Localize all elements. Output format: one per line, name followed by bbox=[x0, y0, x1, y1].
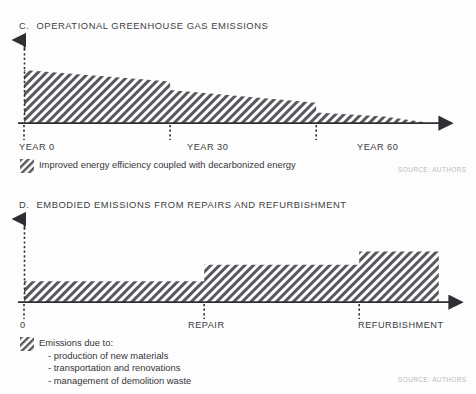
embodied-emissions-steps bbox=[24, 252, 439, 302]
embodied-emissions-chart bbox=[0, 211, 476, 321]
operational-emissions-chart bbox=[0, 32, 476, 142]
hatch-swatch-icon bbox=[20, 159, 34, 173]
embodied-legend-item-1: - production of new materials bbox=[39, 350, 191, 363]
panel-c-title: C.OPERATIONAL GREENHOUSE GAS EMISSIONS bbox=[19, 20, 268, 31]
embodied-legend-title: Emissions due to: bbox=[39, 337, 191, 350]
panel-d-title: D.EMBODIED EMISSIONS FROM REPAIRS AND RE… bbox=[19, 199, 347, 210]
figure-canvas: C.OPERATIONAL GREENHOUSE GAS EMISSIONS bbox=[0, 0, 476, 394]
panel-d-letter: D. bbox=[19, 199, 29, 210]
embodied-legend-item-3: - management of demolition waste bbox=[39, 375, 191, 388]
embodied-legend-item-2: - transportation and renovations bbox=[39, 362, 191, 375]
x-tick-label-year-0: YEAR 0 bbox=[19, 142, 55, 152]
x-tick-label-zero: 0 bbox=[20, 320, 26, 330]
operational-emissions-area bbox=[24, 70, 423, 123]
embodied-legend: Emissions due to: - production of new ma… bbox=[20, 337, 191, 387]
embodied-legend-block: Emissions due to: - production of new ma… bbox=[39, 337, 191, 387]
x-tick-label-year-60: YEAR 60 bbox=[357, 142, 398, 152]
source-note-c: SOURCE: AUTHORS bbox=[398, 166, 467, 173]
panel-d-title-text: EMBODIED EMISSIONS FROM REPAIRS AND REFU… bbox=[36, 199, 346, 210]
operational-legend: Improved energy efficiency coupled with … bbox=[20, 159, 296, 173]
x-tick-label-year-30: YEAR 30 bbox=[187, 142, 228, 152]
panel-c-letter: C. bbox=[19, 20, 29, 31]
x-tick-label-refurbishment: REFURBISHMENT bbox=[358, 320, 444, 330]
source-note-d: SOURCE: AUTHORS bbox=[398, 376, 467, 383]
hatch-swatch-icon bbox=[20, 337, 34, 351]
panel-c-title-text: OPERATIONAL GREENHOUSE GAS EMISSIONS bbox=[36, 20, 268, 31]
x-tick-label-repair: REPAIR bbox=[188, 320, 225, 330]
operational-legend-label: Improved energy efficiency coupled with … bbox=[39, 159, 296, 172]
